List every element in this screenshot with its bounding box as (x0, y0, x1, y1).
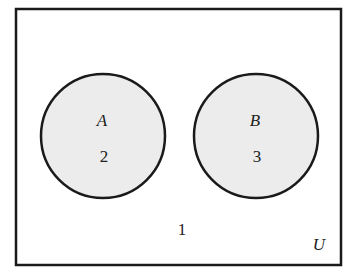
venn-diagram: A 2 B 3 1 U (0, 0, 344, 269)
set-b-count: 3 (253, 147, 262, 166)
universe-label: U (313, 235, 327, 254)
set-a-circle (41, 74, 165, 198)
outside-count: 1 (178, 220, 187, 239)
set-b-label: B (250, 111, 261, 130)
set-a-label: A (96, 111, 108, 130)
set-b-circle (194, 74, 318, 198)
set-a-count: 2 (100, 147, 109, 166)
